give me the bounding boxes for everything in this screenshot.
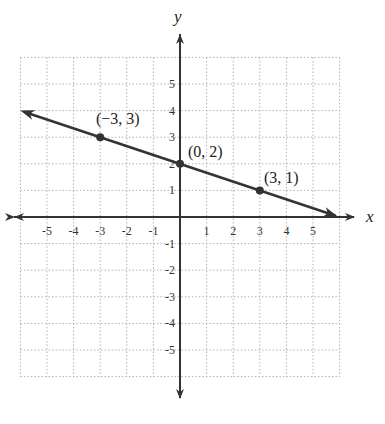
point-label-0-2: (0, 2) xyxy=(188,143,223,161)
y-axis-label: y xyxy=(172,7,182,26)
data-point xyxy=(96,133,104,141)
x-tick-label: -5 xyxy=(42,224,52,238)
y-tick-label: -1 xyxy=(165,237,175,251)
x-tick-label: -1 xyxy=(148,224,158,238)
data-point xyxy=(176,160,184,168)
y-tick-label: 5 xyxy=(169,77,175,91)
y-tick-label: -2 xyxy=(165,263,175,277)
y-tick-label: 2 xyxy=(169,157,175,171)
x-tick-label: 4 xyxy=(283,224,289,238)
point-label-3-1: (3, 1) xyxy=(264,169,299,187)
y-tick-label: -3 xyxy=(165,290,175,304)
x-tick-label: 3 xyxy=(257,224,263,238)
y-tick-label: -5 xyxy=(165,343,175,357)
data-point xyxy=(256,186,264,194)
x-axis-label: x xyxy=(365,207,374,226)
line-left-arrow-icon xyxy=(19,106,35,120)
coordinate-plane-chart: -5-4-3-2-112345-5-4-3-2-112345 x y (−3, … xyxy=(0,0,385,424)
y-tick-label: 3 xyxy=(169,130,175,144)
x-tick-label: 2 xyxy=(230,224,236,238)
x-tick-label: -4 xyxy=(69,224,79,238)
y-tick-label: 4 xyxy=(169,104,175,118)
point-label-neg3-3: (−3, 3) xyxy=(96,110,140,128)
x-tick-label: -3 xyxy=(95,224,105,238)
plot-line xyxy=(19,106,336,216)
x-tick-label: 1 xyxy=(204,224,210,238)
x-tick-label: 5 xyxy=(310,224,316,238)
axes xyxy=(14,34,354,398)
y-tick-label: -4 xyxy=(165,316,175,330)
x-tick-label: -2 xyxy=(122,224,132,238)
y-tick-label: 1 xyxy=(169,183,175,197)
